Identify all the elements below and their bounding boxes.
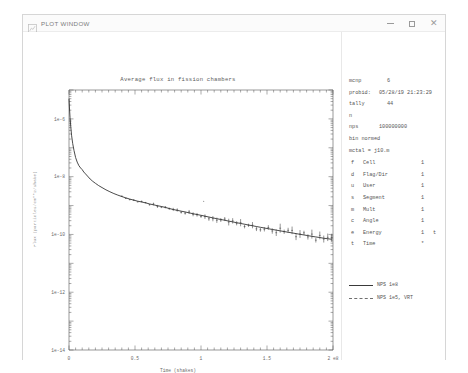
minimize-button[interactable] [379,15,401,32]
bin-code: c [351,218,354,224]
bin-row: uUser1 [349,183,445,195]
y-tick-label: 1e-6 [54,117,65,122]
bin-name: Cell [363,160,375,166]
legend-item: NPS 1e8 [349,282,449,295]
bin-name: Flag/Dir [363,172,388,178]
bin-normed-text: bin normed [349,136,380,142]
info-panel: mcnp 6 probid: 05/28/19 21:23:29 tally 4… [349,78,445,253]
title-bar[interactable]: PLOT WINDOW ✕ [23,15,445,32]
stray-data-point [203,201,204,202]
bin-name: Mult [363,207,375,213]
bin-code: m [351,207,354,213]
mctal-text: mctal = j10.m [349,148,389,154]
plot-series [69,99,333,243]
y-tick-label: 1e-12 [51,290,65,295]
info-row-bin-normed: bin normed [349,136,445,148]
legend-label: NPS 1e8 [377,282,398,288]
tally-value: 44 [387,101,393,107]
bin-name: Energy [363,230,382,236]
bin-code: s [351,195,354,201]
bin-code: t [351,241,354,247]
close-icon: ✕ [430,19,438,28]
y-axis-label: Flux (particles/cm**2/shake) [33,139,37,279]
code-value: 6 [387,78,390,84]
info-row-probid: probid: 05/28/19 21:23:29 [349,90,445,102]
bin-name: Segment [363,195,385,201]
bin-code: u [351,183,354,189]
bin-name: Angle [363,218,379,224]
bin-row: cAngle1 [349,218,445,230]
tally-key: tally [349,101,365,107]
legend-line-swatch [349,298,373,299]
plot-tick-labels: 00.511.52 e81e-61e-81e-101e-121e-14 [51,117,339,361]
bin-count: 1 [421,195,424,201]
legend-line-swatch [349,285,373,286]
x-tick-label: 0 [68,356,71,361]
bin-code: d [351,172,354,178]
probid-key: probid: [349,90,371,96]
info-row-mctal: mctal = j10.m [349,148,445,160]
client-area: Average flux in fission chambers 00.511.… [23,32,445,360]
bin-row: mMult1 [349,207,445,219]
bin-count: 1 [421,172,424,178]
info-row-tally: tally 44 [349,101,445,113]
bin-row: sSegment1 [349,195,445,207]
close-button[interactable]: ✕ [423,15,445,32]
bin-count: 1 [421,218,424,224]
x-tick-label: 2 e8 [327,356,338,361]
bin-code: e [351,230,354,236]
plot-legend: NPS 1e8NPS 1e5, VRT [349,282,449,308]
info-row-particle: n [349,113,445,125]
bin-count: 1 [421,230,424,236]
bin-name: Time [363,241,375,247]
series-error-bars [121,196,333,243]
maximize-button[interactable] [401,15,423,32]
legend-item: NPS 1e5, VRT [349,295,449,308]
series-line-nps-1e8 [69,99,332,240]
y-tick-label: 1e-10 [51,232,65,237]
x-axis-label: Time (shakes) [23,368,333,373]
plot-window-icon [28,19,37,28]
bin-count: * [421,241,424,247]
particle-value: n [349,113,352,119]
minimize-icon [387,23,394,24]
plot-axes [69,90,333,350]
x-tick-label: 0.5 [131,356,140,361]
y-tick-label: 1e-14 [51,348,65,353]
bin-name: User [363,183,375,189]
plot-window: PLOT WINDOW ✕ Average flux in fission ch… [22,14,446,360]
info-row-nps: nps 100000000 [349,124,445,136]
window-title: PLOT WINDOW [41,20,90,27]
y-tick-label: 1e-8 [54,174,65,179]
bin-row: dFlag/Dir1 [349,172,445,184]
probid-value: 05/28/19 21:23:29 [379,90,432,96]
bin-count: 1 [421,160,424,166]
panel-divider [341,32,342,360]
x-tick-label: 1 [200,356,203,361]
screenshot-root: PLOT WINDOW ✕ Average flux in fission ch… [0,0,468,373]
legend-label: NPS 1e5, VRT [377,295,413,301]
bin-flag: t [433,230,436,236]
nps-value: 100000000 [379,124,407,130]
window-controls: ✕ [379,15,445,32]
info-row-code: mcnp 6 [349,78,445,90]
bin-table: fCell1dFlag/Dir1uUser1sSegment1mMult1cAn… [349,160,445,253]
x-tick-label: 1.5 [263,356,272,361]
bin-code: f [351,160,354,166]
bin-row: eEnergy1t [349,230,445,242]
code-key: mcnp [349,78,361,84]
bin-count: 1 [421,207,424,213]
bin-count: 1 [421,183,424,189]
bin-row: fCell1 [349,160,445,172]
bin-row: tTime* [349,241,445,253]
nps-key: nps [349,124,358,130]
maximize-icon [409,21,415,27]
plot-canvas: 00.511.52 e81e-61e-81e-101e-121e-14 [23,32,341,362]
